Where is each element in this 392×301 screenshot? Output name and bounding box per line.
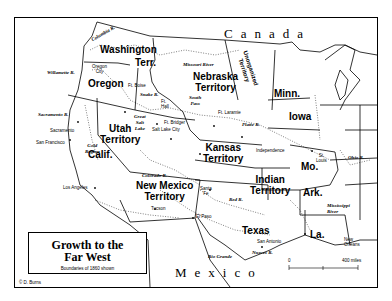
- city-fort-laramie: Ft. Laramie: [218, 111, 241, 116]
- country-canada: Canada: [224, 27, 311, 40]
- state-missouri: Mo.: [301, 162, 318, 172]
- city-san-francisco: San Francisco: [36, 141, 65, 146]
- city-sacramento: Sacramento: [50, 129, 74, 134]
- copyright: © D. Burns: [19, 281, 41, 286]
- state-arkansas: Ark.: [303, 188, 322, 198]
- river-colorado: Colorado R.: [142, 173, 167, 178]
- state-oregon: Oregon: [88, 79, 124, 89]
- city-los-angeles: Los Angeles: [63, 186, 88, 191]
- city-south-pass: South Pass: [189, 95, 201, 107]
- river-willamette: Willamette R.: [47, 70, 75, 75]
- territory-washington: Washington: [100, 44, 157, 55]
- city-oregon-city: Oregon City: [92, 64, 107, 74]
- city-st-louis: St. Louis: [316, 153, 327, 163]
- state-minnesota: Minn.: [274, 89, 300, 99]
- city-fort-boise: Ft. Boise: [128, 84, 146, 89]
- map-title: Growth to the Far West: [29, 239, 146, 263]
- map-subtitle: Boundaries of 1860 shown: [29, 266, 146, 271]
- city-fort-bridger: Ft. Bridger: [164, 121, 185, 126]
- map-title-box: Growth to the Far West Boundaries of 186…: [28, 232, 147, 274]
- state-louisiana: La.: [310, 230, 324, 240]
- city-san-antonio: San Antonio: [257, 240, 281, 245]
- scale-start-label: 0: [288, 259, 291, 264]
- river-platte: Platte R.: [242, 122, 260, 127]
- river-missouri: Missouri River: [183, 62, 214, 67]
- territory-kansas: Kansas Territory: [203, 142, 243, 164]
- city-tucson: Tucson: [151, 207, 166, 212]
- gold-region: Gold Region: [85, 143, 100, 155]
- territory-indian: Indian Territory: [250, 174, 290, 196]
- river-red: Red R.: [229, 197, 243, 202]
- city-fort-hall: Ft. Hall: [161, 99, 169, 109]
- scale-end-label: 400 miles: [342, 259, 361, 264]
- river-mississippi: Mississippi River: [327, 203, 350, 215]
- city-salt-lake-city: Salt Lake City: [152, 128, 180, 133]
- river-rio-grande: Rio Grande: [208, 254, 232, 259]
- river-snake: Snake R.: [140, 92, 159, 97]
- river-sacramento: Sacramento R.: [38, 112, 69, 117]
- river-ohio: Ohio R.: [348, 155, 364, 160]
- territory-new-mexico: New Mexico Territory: [136, 180, 193, 202]
- country-mexico: Mexico: [175, 266, 263, 279]
- river-nueces: Nueces R.: [252, 250, 273, 255]
- city-independence: Independence: [256, 149, 285, 154]
- great-salt-lake: Great Salt Lake: [134, 114, 146, 132]
- city-santa-fe: Santa Fe: [200, 186, 212, 196]
- territory-washington-abbr: Terr.: [135, 57, 156, 68]
- state-iowa: Iowa: [289, 112, 311, 122]
- city-el-paso: El Paso: [196, 215, 212, 220]
- city-new-orleans: New Orleans: [344, 237, 360, 247]
- state-texas: Texas: [242, 226, 270, 236]
- territory-nebraska: Nebraska Territory: [193, 71, 238, 93]
